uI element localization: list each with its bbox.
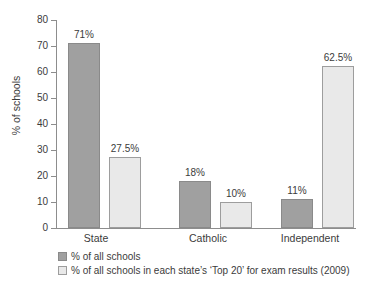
y-axis-tick-label: 20 [0,171,48,181]
legend-item-label: % of all schools in each state’s ‘Top 20… [71,265,349,276]
y-axis-tick-label-text: 30 [4,145,48,155]
y-axis-tick-label: 50 [0,93,48,103]
y-axis-tick-label: 10 [0,197,48,207]
y-axis-tick-label-text: 70 [4,41,48,51]
bar-value-label: 10% [212,189,260,199]
y-axis-tick-label: 80 [0,15,48,25]
y-axis-tick-label-text: 60 [4,67,48,77]
chart-legend: % of all schools % of all schools in eac… [58,250,349,278]
y-axis-tick [51,176,56,177]
legend-item: % of all schools in each state’s ‘Top 20… [58,264,349,277]
y-axis-tick-label-text: 0 [4,223,48,233]
y-axis-tick [51,124,56,125]
y-axis-tick-label-text: 80 [4,15,48,25]
y-axis-tick [51,98,56,99]
bar-chart: % of schools 80706050403020100 71%27.5%1… [0,0,369,281]
bar-state-series-0 [68,43,100,228]
x-axis-label-state: State [51,232,141,244]
legend-swatch-icon [58,266,67,275]
y-axis-tick [51,150,56,151]
bar-value-label: 62.5% [314,53,362,63]
y-axis-tick [51,20,56,21]
y-axis-tick-label-text: 20 [4,171,48,181]
y-axis-tick-label: 40 [0,119,48,129]
bar-catholic-series-0 [179,181,211,228]
bar-catholic-series-1 [220,202,252,228]
plot-area: % of schools 80706050403020100 71%27.5%1… [0,0,369,248]
x-axis-line [56,228,356,229]
bar-value-label: 18% [171,168,219,178]
legend-swatch-icon [58,252,67,261]
bar-state-series-1 [109,157,141,229]
y-axis-tick-label: 70 [0,41,48,51]
y-axis-tick [51,46,56,47]
bar-value-label: 11% [273,186,321,196]
bar-value-label: 27.5% [101,144,149,154]
y-axis-tick-label: 60 [0,67,48,77]
bar-independent-series-0 [281,199,313,228]
x-axis-label-independent: Independent [265,232,355,244]
y-axis-tick [51,202,56,203]
y-axis-tick-label: 0 [0,223,48,233]
y-axis-tick [51,228,56,229]
y-axis-tick-label-text: 40 [4,119,48,129]
x-axis-label-catholic: Catholic [163,232,253,244]
y-axis-tick-label-text: 10 [4,197,48,207]
bar-value-label: 71% [60,30,108,40]
legend-item: % of all schools [58,250,349,263]
y-axis-line [56,20,57,229]
y-axis-tick [51,72,56,73]
bar-independent-series-1 [322,66,354,229]
y-axis-tick-label-text: 50 [4,93,48,103]
y-axis-tick-label: 30 [0,145,48,155]
legend-item-label: % of all schools [71,251,140,262]
